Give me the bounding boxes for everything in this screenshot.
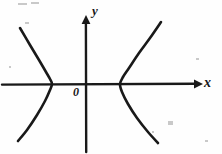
y-axis-arrowhead bbox=[82, 15, 91, 24]
x-axis-label: x bbox=[204, 76, 211, 90]
origin-label: 0 bbox=[73, 86, 79, 98]
y-axis-label: y bbox=[92, 4, 98, 17]
hyperbola-right-branch bbox=[120, 22, 161, 143]
x-axis-arrowhead bbox=[194, 80, 203, 89]
hyperbola-figure: y x 0 bbox=[0, 0, 222, 154]
x-axis bbox=[2, 80, 203, 89]
figure-canvas bbox=[0, 0, 222, 154]
scan-noise bbox=[9, 2, 208, 142]
